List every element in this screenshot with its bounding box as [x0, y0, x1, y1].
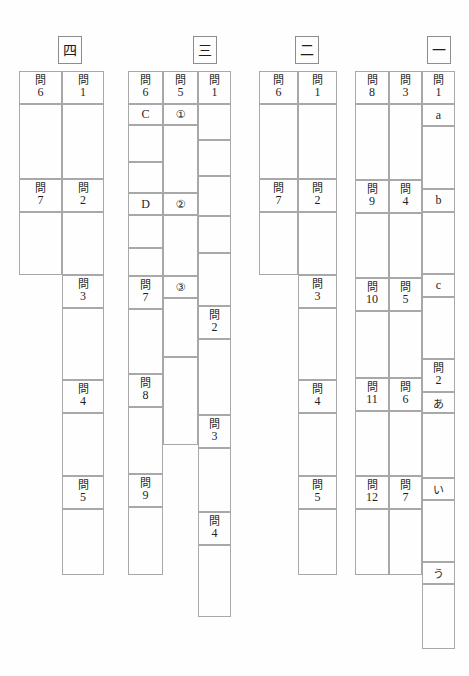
- label-cell-s2-mon5: 問 5: [298, 476, 337, 509]
- section-heading-2: 二: [295, 36, 319, 64]
- answer-cell-s3-mon1[interactable]: [198, 104, 231, 140]
- answer-cell-s1-mon1-c[interactable]: [422, 297, 455, 359]
- answer-cell-s3-mon1-b[interactable]: [198, 140, 231, 176]
- answer-cell-s3-mon5-3-extra[interactable]: [163, 357, 198, 445]
- answer-cell-s4-mon5[interactable]: [62, 509, 104, 575]
- label-cell-s1-mon6: 問 6: [389, 378, 422, 411]
- mon-number: 7: [38, 195, 44, 207]
- mon-number: 12: [366, 492, 378, 504]
- mon-number: 1: [212, 87, 218, 99]
- label-cell-s3-mon9: 問 9: [128, 474, 163, 507]
- answer-cell-s1-mon6[interactable]: [389, 411, 422, 476]
- answer-cell-s3-mon3[interactable]: [198, 448, 231, 512]
- mon-number: 3: [315, 291, 321, 303]
- label-cell-s1-mon7: 問 7: [389, 476, 422, 509]
- section-heading-1: 一: [427, 36, 451, 64]
- answer-cell-s4-mon2[interactable]: [62, 212, 104, 275]
- answer-cell-s4-mon1[interactable]: [62, 104, 104, 179]
- answer-cell-s1-mon10[interactable]: [355, 311, 389, 378]
- answer-cell-s3-mon2[interactable]: [198, 339, 231, 415]
- sublabel-cell-s1-i-hira: い: [422, 478, 455, 500]
- answer-cell-s4-mon6[interactable]: [19, 104, 62, 179]
- answer-cell-s4-mon7[interactable]: [19, 212, 62, 275]
- label-cell-s3-mon6: 問 6: [128, 71, 163, 104]
- answer-cell-s1-mon2-u[interactable]: [422, 584, 455, 649]
- label-cell-s1-mon11: 問 11: [355, 378, 389, 411]
- mon-number: 3: [212, 431, 218, 443]
- mon-number: 4: [315, 396, 321, 408]
- sublabel-cell-s3-circle2: ②: [163, 193, 198, 215]
- mon-number: 1: [436, 87, 442, 99]
- answer-cell-s3-mon8[interactable]: [128, 407, 163, 474]
- label-cell-s2-mon2: 問 2: [298, 179, 337, 212]
- answer-cell-s1-mon2-a[interactable]: [422, 413, 455, 478]
- answer-cell-s3-mon4[interactable]: [198, 545, 231, 617]
- answer-cell-s2-mon1[interactable]: [298, 104, 337, 179]
- section-heading-3: 三: [193, 36, 217, 64]
- mon-number: 6: [403, 394, 409, 406]
- answer-cell-s3-mon6-C[interactable]: [128, 125, 163, 162]
- answer-cell-s1-mon9[interactable]: [355, 213, 389, 278]
- label-cell-s2-mon3: 問 3: [298, 275, 337, 308]
- answer-cell-s1-mon4[interactable]: [389, 213, 422, 278]
- label-cell-s2-mon4: 問 4: [298, 380, 337, 413]
- answer-cell-s2-mon6[interactable]: [259, 104, 298, 179]
- mon-number: 3: [80, 291, 86, 303]
- answer-cell-s1-mon5[interactable]: [389, 311, 422, 378]
- answer-cell-s1-mon1-b[interactable]: [422, 212, 455, 274]
- answer-cell-s1-mon1-a[interactable]: [422, 126, 455, 189]
- answer-cell-s3-mon7[interactable]: [128, 309, 163, 374]
- answer-cell-s2-mon2[interactable]: [298, 212, 337, 275]
- answer-cell-s1-mon2-i[interactable]: [422, 500, 455, 562]
- label-cell-s1-mon3: 問 3: [389, 71, 422, 104]
- answer-cell-s4-mon4[interactable]: [62, 413, 104, 476]
- answer-cell-s1-mon7[interactable]: [389, 509, 422, 575]
- label-cell-s4-mon1: 問 1: [62, 71, 104, 104]
- mon-number: 2: [212, 322, 218, 334]
- answer-cell-s3-mon9[interactable]: [128, 507, 163, 575]
- answer-cell-s4-mon3[interactable]: [62, 308, 104, 380]
- answer-cell-s3-mon1-c[interactable]: [198, 176, 231, 216]
- mon-number: 8: [143, 390, 149, 402]
- label-cell-s3-mon3: 問 3: [198, 415, 231, 448]
- mon-number: 10: [366, 294, 378, 306]
- answer-cell-s3-mon1-e[interactable]: [198, 253, 231, 306]
- mon-number: 9: [369, 196, 375, 208]
- label-cell-s4-mon7: 問 7: [19, 179, 62, 212]
- label-cell-s1-mon9: 問 9: [355, 180, 389, 213]
- answer-cell-s3-mon5-1[interactable]: [163, 125, 198, 193]
- label-cell-s4-mon2: 問 2: [62, 179, 104, 212]
- sublabel-cell-s1-b: b: [422, 189, 455, 212]
- sublabel-cell-s3-C: C: [128, 104, 163, 125]
- answer-cell-s2-mon4[interactable]: [298, 413, 337, 476]
- answer-cell-s1-mon12[interactable]: [355, 509, 389, 575]
- answer-cell-s1-mon11[interactable]: [355, 411, 389, 476]
- answer-cell-s3-mon5-3[interactable]: [163, 298, 198, 357]
- label-cell-s4-mon6: 問 6: [19, 71, 62, 104]
- answer-cell-s3-mon6-C-extra[interactable]: [128, 162, 163, 193]
- answer-cell-s3-mon6-D[interactable]: [128, 215, 163, 248]
- answer-cell-s3-mon6-D-extra[interactable]: [128, 248, 163, 276]
- answer-cell-s3-mon5-2[interactable]: [163, 215, 198, 276]
- mon-number: 2: [315, 195, 321, 207]
- mon-number: 6: [38, 87, 44, 99]
- mon-number: 6: [276, 87, 282, 99]
- mon-number: 5: [178, 87, 184, 99]
- mon-number: 7: [403, 492, 409, 504]
- label-cell-s1-mon8: 問 8: [355, 71, 389, 104]
- mon-number: 11: [366, 394, 378, 406]
- answer-cell-s2-mon3[interactable]: [298, 308, 337, 380]
- answer-cell-s1-mon8[interactable]: [355, 104, 389, 180]
- label-cell-s3-mon5: 問 5: [163, 71, 198, 104]
- answer-cell-s2-mon5[interactable]: [298, 509, 337, 575]
- answer-cell-s1-mon3[interactable]: [389, 104, 422, 180]
- sublabel-cell-s3-circle1: ①: [163, 104, 198, 125]
- answer-cell-s3-mon1-d[interactable]: [198, 216, 231, 253]
- answer-cell-s2-mon7[interactable]: [259, 212, 298, 275]
- label-cell-s3-mon1: 問 1: [198, 71, 231, 104]
- mon-number: 4: [212, 528, 218, 540]
- sublabel-cell-s3-D: D: [128, 193, 163, 215]
- label-cell-s1-mon12: 問 12: [355, 476, 389, 509]
- section-heading-4: 四: [58, 36, 82, 64]
- mon-number: 5: [80, 492, 86, 504]
